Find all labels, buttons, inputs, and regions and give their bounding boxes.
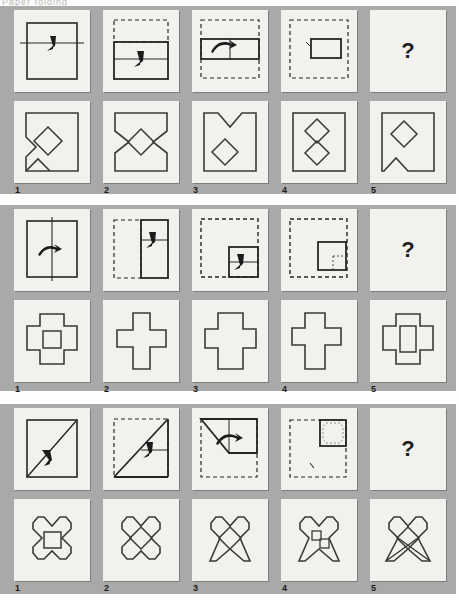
- option-number: 3: [193, 384, 198, 394]
- answer-options-row-3: 1 2 3 4 5: [0, 499, 456, 587]
- option-number: 2: [104, 185, 109, 195]
- fold-step-cell[interactable]: [192, 10, 268, 92]
- option-cell[interactable]: [192, 300, 268, 382]
- option-number: 5: [371, 583, 376, 593]
- option-cell[interactable]: [14, 101, 90, 183]
- option-cell[interactable]: [192, 101, 268, 183]
- option-number: 1: [15, 384, 20, 394]
- question-mark: ?: [370, 10, 446, 92]
- option-cell[interactable]: [370, 101, 446, 183]
- option-cell[interactable]: [103, 300, 179, 382]
- option-cell[interactable]: [14, 499, 90, 581]
- question-mark: ?: [370, 408, 446, 490]
- fold-sequence-row-2: ?: [0, 209, 456, 297]
- option-cell[interactable]: [14, 300, 90, 382]
- option-number: 5: [371, 384, 376, 394]
- option-number: 4: [282, 185, 287, 195]
- fold-step-cell[interactable]: [103, 10, 179, 92]
- option-number: 5: [371, 185, 376, 195]
- fold-step-cell[interactable]: [14, 408, 90, 490]
- answer-options-row-1: 1 2 3 4 5: [0, 101, 456, 189]
- puzzle-block-2: ?: [0, 205, 456, 391]
- option-cell[interactable]: [192, 499, 268, 581]
- fold-sequence-row-3: ?: [0, 408, 456, 496]
- fold-step-cell[interactable]: [281, 408, 357, 490]
- fold-step-cell[interactable]: [281, 10, 357, 92]
- option-number: 3: [193, 583, 198, 593]
- worksheet-page: Paper folding: [0, 0, 460, 601]
- option-cell[interactable]: [370, 300, 446, 382]
- answer-options-row-2: 1 2 3 4 5: [0, 300, 456, 388]
- option-number: 1: [15, 185, 20, 195]
- puzzle-block-1: ?: [0, 6, 456, 194]
- option-cell[interactable]: [281, 300, 357, 382]
- option-number: 4: [282, 583, 287, 593]
- option-number: 2: [104, 384, 109, 394]
- option-number: 1: [15, 583, 20, 593]
- fold-step-cell[interactable]: [192, 408, 268, 490]
- option-number: 3: [193, 185, 198, 195]
- fold-step-cell[interactable]: [281, 209, 357, 291]
- option-cell[interactable]: [103, 101, 179, 183]
- fold-step-cell[interactable]: [14, 10, 90, 92]
- option-number: 2: [104, 583, 109, 593]
- option-cell[interactable]: [281, 101, 357, 183]
- option-number: 4: [282, 384, 287, 394]
- answer-placeholder-cell[interactable]: ?: [370, 209, 446, 291]
- question-mark: ?: [370, 209, 446, 291]
- fold-step-cell[interactable]: [192, 209, 268, 291]
- fold-step-cell[interactable]: [103, 209, 179, 291]
- option-cell[interactable]: [103, 499, 179, 581]
- fold-step-cell[interactable]: [14, 209, 90, 291]
- option-cell[interactable]: [370, 499, 446, 581]
- option-cell[interactable]: [281, 499, 357, 581]
- puzzle-block-3: ?: [0, 404, 456, 594]
- answer-placeholder-cell[interactable]: ?: [370, 408, 446, 490]
- fold-step-cell[interactable]: [103, 408, 179, 490]
- fold-sequence-row-1: ?: [0, 10, 456, 98]
- answer-placeholder-cell[interactable]: ?: [370, 10, 446, 92]
